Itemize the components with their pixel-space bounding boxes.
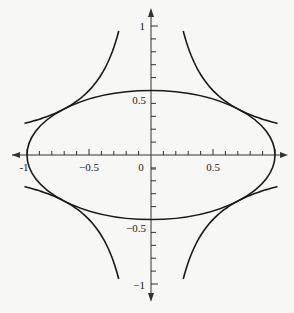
hyperbola-q3-curve [25, 187, 119, 279]
x-tick-label-0: 0 [138, 161, 144, 173]
y-tick-label-neg05: −0.5 [126, 222, 146, 234]
y-tick-label-05: 0.5 [132, 94, 146, 106]
plot-area: -1 −0.5 0 0.5 1 0.5 −0.5 −1 [0, 0, 294, 313]
y-tick-label-1: 1 [140, 20, 146, 32]
axes [12, 8, 288, 302]
y-axis-up-arrow-icon [148, 8, 154, 17]
x-axis-left-arrow-icon [12, 152, 20, 158]
hyperbola-q2-curve [25, 31, 119, 123]
y-axis-down-arrow-icon [148, 293, 154, 302]
x-tick-label-neg1: -1 [19, 161, 28, 173]
x-tick-label-neg05: −0.5 [79, 161, 99, 173]
x-axis-right-arrow-icon [280, 152, 288, 158]
chart-figure: -1 −0.5 0 0.5 1 0.5 −0.5 −1 [0, 0, 294, 313]
y-tick-label-neg1: −1 [133, 279, 145, 291]
hyperbola-q1-curve [183, 31, 277, 123]
hyperbola-q4-curve [183, 187, 277, 279]
x-tick-label-05: 0.5 [206, 161, 220, 173]
